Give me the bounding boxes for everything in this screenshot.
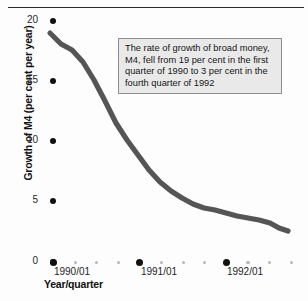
chart-plot-area: Growth of M4 (per cent per year) 20 15 1… (0, 0, 308, 301)
figure: Growth of M4 (per cent per year) 20 15 1… (0, 0, 308, 301)
annotation-line-1: The rate of growth of broad money, (125, 43, 276, 55)
annotation-line-3: quarter of 1990 to 3 per cent in the (125, 66, 276, 78)
annotation-line-2: M4, fell from 19 per cent in the first (125, 55, 276, 67)
chart-annotation-box: The rate of growth of broad money, M4, f… (118, 38, 282, 94)
annotation-line-4: fourth quarter of 1992 (125, 78, 276, 90)
